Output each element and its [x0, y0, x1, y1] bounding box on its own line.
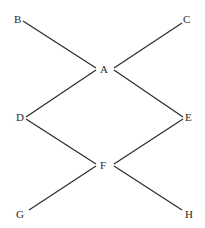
node-label-g: G	[16, 208, 24, 220]
edge-c-a	[114, 23, 182, 68]
edges	[23, 21, 183, 210]
edge-a-e	[114, 70, 183, 117]
node-label-d: D	[16, 111, 24, 123]
node-graph-diagram: B C A D E F G H	[0, 0, 205, 228]
edge-f-g	[29, 166, 96, 210]
node-label-b: B	[14, 13, 21, 25]
edge-a-d	[26, 70, 96, 117]
edge-b-a	[23, 21, 96, 68]
node-label-a: A	[100, 63, 108, 75]
node-labels: B C A D E F G H	[14, 13, 193, 220]
edge-e-f	[114, 119, 183, 164]
edge-d-f	[26, 119, 96, 164]
node-label-e: E	[185, 111, 192, 123]
node-label-c: C	[183, 13, 190, 25]
node-label-h: H	[185, 208, 193, 220]
node-label-f: F	[100, 159, 106, 171]
edge-f-h	[114, 166, 182, 210]
